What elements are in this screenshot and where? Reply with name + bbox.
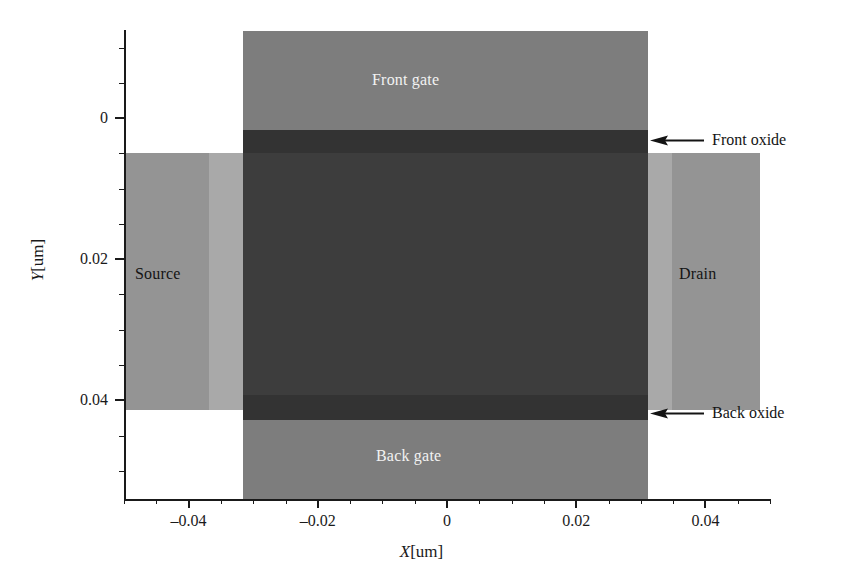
x-tick-major — [317, 499, 319, 508]
region-channel-body — [243, 153, 648, 395]
y-tick-minor — [119, 189, 124, 190]
y-axis-title-variable: Y — [28, 272, 47, 281]
region-front-oxide — [243, 130, 648, 153]
arrow-left-icon — [650, 135, 706, 146]
y-tick-minor — [119, 365, 124, 366]
x-tick-label: 0.04 — [691, 512, 719, 530]
x-tick-label: 0 — [443, 512, 451, 530]
x-tick-minor — [286, 499, 287, 504]
region-source-extension — [209, 153, 243, 410]
y-tick-label: 0.04 — [0, 391, 108, 409]
y-tick-minor — [119, 83, 124, 84]
x-tick-major — [704, 499, 706, 508]
x-tick-minor — [673, 499, 674, 504]
y-axis-title-unit: [um] — [28, 239, 47, 272]
y-tick-label: 0 — [0, 109, 108, 127]
label-back-gate: Back gate — [376, 447, 441, 465]
y-tick-minor — [119, 330, 124, 331]
x-tick-major — [575, 499, 577, 508]
x-tick-minor — [479, 499, 480, 504]
x-tick-minor — [124, 499, 125, 504]
x-tick-minor — [156, 499, 157, 504]
x-axis-title: X[um] — [0, 542, 843, 562]
y-axis-line — [124, 30, 126, 501]
callout-back-oxide: Back oxide — [650, 404, 784, 422]
region-front-gate — [243, 31, 648, 130]
y-tick-major — [115, 117, 124, 119]
y-tick-minor — [119, 436, 124, 437]
x-tick-label: 0.02 — [562, 512, 590, 530]
y-tick-minor — [119, 153, 124, 154]
y-axis-title: Y[um] — [28, 200, 48, 320]
y-tick-minor — [119, 471, 124, 472]
y-tick-major — [115, 258, 124, 260]
x-tick-minor — [415, 499, 416, 504]
x-tick-minor — [609, 499, 610, 504]
x-tick-minor — [641, 499, 642, 504]
x-tick-major — [446, 499, 448, 508]
callout-front-oxide-text: Front oxide — [712, 131, 786, 149]
x-tick-minor — [738, 499, 739, 504]
x-tick-minor — [512, 499, 513, 504]
callout-front-oxide: Front oxide — [650, 131, 786, 149]
y-tick-minor — [119, 294, 124, 295]
x-tick-minor — [221, 499, 222, 504]
label-drain: Drain — [679, 265, 716, 283]
y-tick-major — [115, 399, 124, 401]
region-back-gate — [243, 420, 648, 499]
x-axis-title-unit: [um] — [410, 542, 443, 561]
x-tick-minor — [253, 499, 254, 504]
x-tick-label: –0.04 — [171, 512, 207, 530]
region-drain-extension — [648, 153, 672, 410]
x-tick-minor — [350, 499, 351, 504]
x-tick-label: –0.02 — [300, 512, 336, 530]
y-tick-label: 0.02 — [0, 250, 108, 268]
x-tick-major — [188, 499, 190, 508]
y-tick-minor — [119, 224, 124, 225]
region-back-oxide — [243, 395, 648, 420]
callout-back-oxide-text: Back oxide — [712, 404, 784, 422]
y-tick-minor — [119, 48, 124, 49]
arrow-left-icon — [650, 408, 706, 419]
label-source: Source — [135, 265, 181, 283]
x-axis-title-variable: X — [400, 542, 410, 561]
device-cross-section-figure: Front gate Back gate Source Drain Front … — [0, 0, 843, 581]
x-tick-minor — [544, 499, 545, 504]
label-front-gate: Front gate — [372, 71, 439, 89]
x-tick-minor — [382, 499, 383, 504]
x-tick-minor — [770, 499, 771, 504]
